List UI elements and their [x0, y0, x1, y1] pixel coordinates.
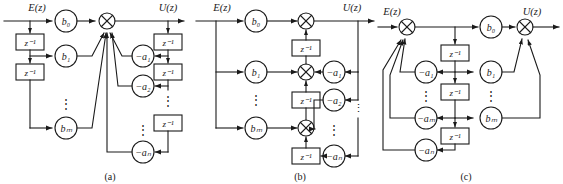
- c-delay-3-label: z⁻¹: [448, 132, 461, 142]
- c-am-label: −aₘ: [417, 113, 436, 124]
- a-fb-delay-3-label: z⁻¹: [161, 119, 174, 129]
- b-b0-label: b₀: [252, 16, 261, 27]
- panel-a: [4, 10, 184, 163]
- c-ellipsis-left: ⋮: [420, 89, 432, 103]
- panel-b: [196, 10, 374, 167]
- a-fb-delay-1-label: z⁻¹: [161, 38, 174, 48]
- caption-b: (b): [294, 171, 306, 183]
- a-ellipsis-gain: ⋮: [137, 123, 149, 137]
- block-diagram-figure: E(z) U(z) z⁻¹ z⁻¹ z⁻¹ z⁻¹ z⁻¹ b₀ b₁ bₘ −…: [0, 0, 563, 184]
- c-bm-out: [502, 40, 540, 118]
- caption-a: (a): [104, 171, 115, 183]
- b-ellipsis-left: ⋮: [250, 93, 262, 107]
- a-delay-1-label: z⁻¹: [23, 38, 36, 48]
- b-delay-3-label: z⁻¹: [299, 152, 312, 162]
- c-b1-out: [502, 39, 522, 72]
- a-an-label: −aₙ: [135, 147, 152, 158]
- a-b1-out: [77, 33, 104, 56]
- c-a1-label: −a₁: [418, 67, 433, 78]
- c-b0-label: b₀: [487, 22, 496, 33]
- panel-c: [378, 16, 559, 161]
- c-an-return: [383, 40, 415, 150]
- b-ellipsis-bus: ⋮: [353, 102, 364, 114]
- a-b1-label: b₁: [62, 51, 70, 62]
- b-delay-2-label: z⁻¹: [299, 96, 312, 106]
- b-delay-1-label: z⁻¹: [299, 44, 312, 54]
- a-ellipsis-right: ⋮: [162, 94, 174, 108]
- b-a2-label: −a₂: [326, 95, 342, 106]
- c-delay-2-label: z⁻¹: [448, 88, 461, 98]
- c-input-label: E(z): [382, 6, 401, 18]
- a-bm-out: [77, 33, 106, 128]
- c-delay3-out: [441, 144, 455, 150]
- a-bm-label: bₘ: [61, 123, 73, 134]
- b-ellipsis-gain: ⋮: [328, 123, 340, 137]
- b-input-label: E(z): [212, 2, 231, 14]
- a-input-label: E(z): [27, 2, 46, 14]
- b-b1-label: b₁: [252, 67, 260, 78]
- a-a2-return: [112, 33, 132, 86]
- c-b1-label: b₁: [487, 67, 495, 78]
- b-a1-label: −a₁: [326, 67, 341, 78]
- b-output-label: U(z): [343, 2, 362, 14]
- a-a1-label: −a₁: [135, 51, 150, 62]
- c-output-label: U(z): [523, 6, 542, 18]
- c-a1-return: [400, 39, 415, 72]
- a-fb-delay-2-label: z⁻¹: [161, 68, 174, 78]
- c-ellipsis-right: ⋮: [485, 89, 497, 103]
- b-an-label: −aₙ: [326, 151, 343, 162]
- a-output-label: U(z): [159, 2, 178, 14]
- b-bm-label: bₘ: [251, 123, 263, 134]
- a-delay-2-label: z⁻¹: [23, 68, 36, 78]
- caption-c: (c): [460, 171, 471, 183]
- c-delay-1-label: z⁻¹: [448, 49, 461, 59]
- figure-canvas: E(z) U(z) z⁻¹ z⁻¹ z⁻¹ z⁻¹ z⁻¹ b₀ b₁ bₘ −…: [0, 0, 563, 184]
- a-ellipsis-left: ⋮: [60, 97, 72, 111]
- a-a2-label: −a₂: [135, 81, 151, 92]
- a-b0-label: b₀: [62, 16, 71, 27]
- c-bm-label: bₘ: [486, 113, 498, 124]
- c-an-label: −aₙ: [418, 145, 435, 156]
